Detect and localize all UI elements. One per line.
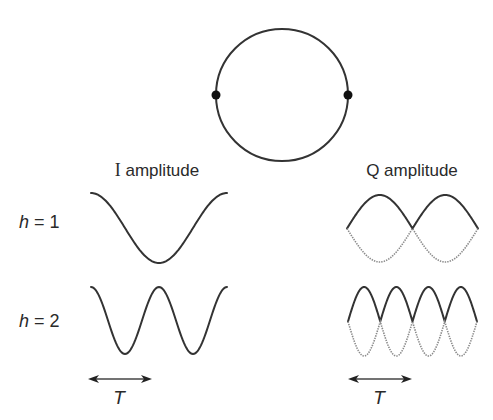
row-label-h2: h = 2 bbox=[19, 311, 60, 331]
i-waveform-h1 bbox=[91, 193, 227, 263]
h-value: = 2 bbox=[29, 311, 60, 331]
i-amplitude-title: I amplitude bbox=[115, 160, 199, 180]
phase-circle-group bbox=[212, 29, 353, 161]
h-variable: h bbox=[19, 311, 29, 331]
q-waveform-h2-upper bbox=[348, 287, 477, 322]
phase-circle bbox=[216, 29, 348, 161]
q-waveform-h2-lower bbox=[348, 322, 477, 357]
period-label-i: T bbox=[113, 387, 126, 408]
period-arrow-i: T bbox=[88, 375, 152, 408]
i-waveform-h2 bbox=[91, 287, 227, 354]
q-waveform-h1-lower bbox=[347, 229, 478, 263]
period-arrow-q: T bbox=[348, 375, 412, 408]
left-marker-dot bbox=[212, 91, 221, 100]
h-variable: h bbox=[19, 212, 29, 232]
period-label-q: T bbox=[373, 387, 386, 408]
q-amplitude-title: Q amplitude bbox=[366, 161, 458, 180]
row-label-h1: h = 1 bbox=[19, 212, 60, 232]
iq-harmonic-diagram: I amplitude Q amplitude h = 1 h = 2 T T bbox=[0, 0, 493, 420]
q-waveform-h1-upper bbox=[347, 195, 478, 229]
h-value: = 1 bbox=[29, 212, 60, 232]
right-marker-dot bbox=[344, 91, 353, 100]
i-title-suffix: amplitude bbox=[121, 161, 199, 180]
